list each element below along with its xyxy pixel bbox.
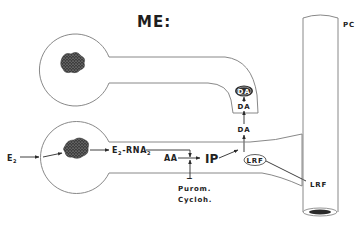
- bottom-nucleus: [64, 138, 89, 158]
- da-vesicle: DA: [235, 86, 253, 97]
- puromycin-label: Purom.: [178, 185, 211, 193]
- diagram-svg: ME: DA DA DA E2 E2-RNA2 AA IP − Purom. C…: [0, 0, 361, 225]
- da-lower-label: DA: [238, 126, 251, 134]
- cycloheximide-label: Cycloh.: [178, 196, 212, 204]
- diagram-title: ME:: [137, 13, 171, 31]
- da-mid-label: DA: [238, 103, 251, 111]
- inhibition-sign: −: [186, 174, 193, 183]
- top-neuron: [39, 34, 258, 113]
- e2-rna2-label: E2-RNA2: [112, 146, 151, 156]
- e2-label: E2: [7, 154, 17, 164]
- aa-label: AA: [164, 154, 178, 163]
- lrf-release-line: [266, 161, 306, 181]
- e2-to-nucleus-arrow: [43, 153, 62, 157]
- top-neuron-outline: [39, 34, 258, 113]
- ip-label: IP: [205, 152, 218, 166]
- top-nucleus: [61, 52, 85, 72]
- lrf-output-label: LRF: [310, 181, 327, 189]
- pc-label: PC: [343, 21, 355, 29]
- ip-to-lrf-arrow: [219, 150, 238, 158]
- da-vesicle-label: DA: [238, 88, 251, 96]
- neuroendocrine-diagram: ME: DA DA DA E2 E2-RNA2 AA IP − Purom. C…: [0, 0, 361, 225]
- lrf-vesicle-label: LRF: [246, 157, 263, 165]
- lrf-vesicle: LRF: [244, 155, 266, 166]
